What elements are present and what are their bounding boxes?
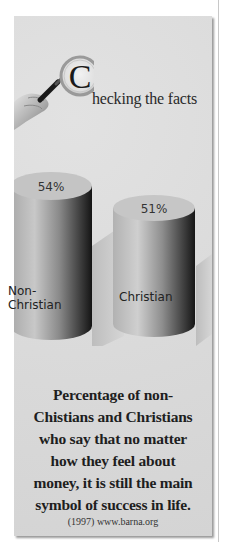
bar-non-christian <box>14 172 92 340</box>
caption-line: Chistians and Christians <box>14 406 212 428</box>
bar-category-label-line1: Non- <box>8 284 92 298</box>
bar-category-label: Christian <box>119 290 195 304</box>
page-divider-line <box>218 0 219 542</box>
bar-value-label: 54% <box>31 180 71 194</box>
bar-category-label: Non- Christian <box>8 284 92 312</box>
caption-line: money, it is still the main <box>14 472 212 494</box>
bar-category-label-line2: Christian <box>8 298 92 312</box>
cylinder-chart: 54% 51% Non- Christian Christian <box>14 166 212 346</box>
caption-line: symbol of success in life. <box>14 494 212 516</box>
caption-line: who say that no matter <box>14 428 212 450</box>
header: C hecking the facts <box>14 40 212 130</box>
bar-christian <box>113 195 195 337</box>
title-text: hecking the facts <box>92 90 197 108</box>
caption: Percentage of non- Chistians and Christi… <box>14 384 212 516</box>
cylinder-shadow <box>196 254 212 346</box>
caption-line: how they feel about <box>14 450 212 472</box>
caption-line: Percentage of non- <box>14 384 212 406</box>
bar-value-label: 51% <box>134 202 174 216</box>
bar-category-label-line2: Christian <box>119 290 195 304</box>
magnifying-glass-icon: C <box>14 40 94 130</box>
source-citation: (1997) www.barna.org <box>14 516 212 527</box>
title-initial: C <box>69 58 92 95</box>
infographic-panel: C hecking the facts <box>14 16 212 536</box>
